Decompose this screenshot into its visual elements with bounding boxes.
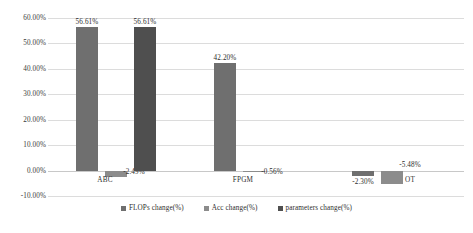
gridline (48, 120, 464, 121)
legend-item-parameters[interactable]: parameters change(%) (278, 204, 352, 212)
legend-label: Acc change(%) (212, 204, 258, 212)
legend-item-acc[interactable]: Acc change(%) (204, 204, 258, 212)
bar-value-abc-flops: 56.61% (65, 18, 109, 26)
bar-value-ot-acc: -5.48% (388, 161, 432, 169)
y-tick-label: 10.00% (2, 141, 46, 149)
x-category-label-fpgm: FPGM (213, 176, 273, 184)
bar-abc-parameters (134, 27, 156, 171)
x-category-label-abc: ABC (75, 176, 135, 184)
gridline (48, 69, 464, 70)
y-tick-label: 20.00% (2, 116, 46, 124)
x-category-label-ot: OT (380, 176, 440, 184)
y-tick-label: 0.00% (2, 167, 46, 175)
y-tick-label: 50.00% (2, 39, 46, 47)
gridline (48, 196, 464, 197)
y-axis: 60.00% 50.00% 40.00% 30.00% 20.00% 10.00… (0, 18, 46, 196)
legend-swatch-icon (278, 206, 283, 211)
legend-swatch-icon (204, 206, 209, 211)
bar-fpgm-flops (214, 63, 236, 170)
bar-value-abc-parameters: 56.61% (123, 18, 167, 26)
y-tick-label: -10.00% (2, 192, 46, 200)
chart-legend: FLOPs change(%) Acc change(%) parameters… (0, 204, 473, 212)
bar-chart: 60.00% 50.00% 40.00% 30.00% 20.00% 10.00… (0, 0, 473, 233)
gridline (48, 43, 464, 44)
bar-abc-flops (76, 27, 98, 171)
bar-value-ot-flops: -2.30% (341, 178, 385, 186)
gridline (48, 18, 464, 19)
bar-ot-flops (352, 171, 374, 177)
gridline (48, 94, 464, 95)
legend-item-flops[interactable]: FLOPs change(%) (121, 204, 184, 212)
gridline (48, 145, 464, 146)
y-tick-label: 60.00% (2, 14, 46, 22)
bar-value-fpgm-flops: 42.20% (203, 54, 247, 62)
plot-area: 56.61% -2.49% 56.61% ABC 42.20% -0.56% F… (48, 18, 464, 196)
legend-label: FLOPs change(%) (129, 204, 184, 212)
legend-swatch-icon (121, 206, 126, 211)
legend-label: parameters change(%) (286, 204, 352, 212)
y-tick-label: 40.00% (2, 65, 46, 73)
y-tick-label: 30.00% (2, 90, 46, 98)
bar-value-fpgm-acc: -0.56% (250, 168, 294, 176)
